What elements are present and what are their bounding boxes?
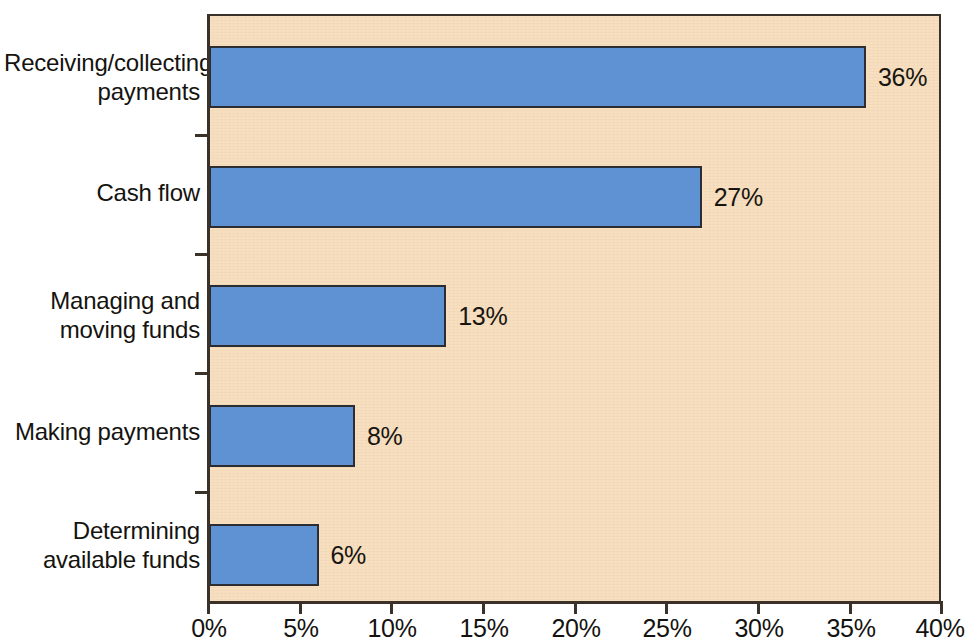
value-axis-tick [757,601,760,614]
category-axis-tick [195,491,208,494]
bar-value-label: 6% [331,541,367,570]
category-axis-tick [195,372,208,375]
bar-determining-available-funds [209,524,319,586]
category-label-line: payments [4,77,200,106]
category-label-cash-flow: Cash flow [4,178,200,207]
bar-chart: Receiving/collecting payments Cash flow … [0,0,970,643]
category-label-line: Determining [4,516,200,545]
value-axis-tick-label: 35% [826,614,875,643]
bar-row: 13% [209,285,939,347]
category-label-line: available funds [4,545,200,574]
value-axis-tick-label: 10% [367,614,416,643]
bar-row: 27% [209,166,939,228]
value-axis-tick-label: 25% [642,614,691,643]
bar-cash-flow [209,166,702,228]
value-axis-tick [390,601,393,614]
category-label-determining-available-funds: Determining available funds [4,516,200,574]
value-axis-tick-label: 0% [191,614,227,643]
bar-value-label: 8% [367,422,403,451]
plot-area: 36% 27% 13% 8% 6% [209,14,941,603]
value-axis-tick-label: 5% [283,614,319,643]
value-axis-tick-label: 40% [915,614,964,643]
category-label-line: Cash flow [4,178,200,207]
bar-value-label: 13% [458,302,507,331]
value-axis-tick [299,601,302,614]
bar-value-label: 36% [878,63,927,92]
bar-row: 36% [209,46,939,108]
bar-making-payments [209,405,355,467]
category-label-making-payments: Making payments [4,417,200,446]
value-axis-tick [665,601,668,614]
bar-managing-and-moving-funds [209,285,446,347]
category-label-receiving-collecting-payments: Receiving/collecting payments [4,48,200,106]
value-axis-line [207,14,210,605]
category-label-managing-and-moving-funds: Managing and moving funds [4,286,200,344]
category-label-line: moving funds [4,315,200,344]
bar-receiving-collecting-payments [209,46,866,108]
category-label-line: Making payments [4,417,200,446]
category-axis-tick [195,134,208,137]
category-label-line: Managing and [4,286,200,315]
category-axis-labels: Receiving/collecting payments Cash flow … [0,0,200,643]
value-axis-tick-label: 30% [734,614,783,643]
value-axis-tick [207,601,210,614]
value-axis-tick [482,601,485,614]
category-label-line: Receiving/collecting [4,48,200,77]
value-axis-tick-label: 20% [551,614,600,643]
value-axis-tick [849,601,852,614]
bar-row: 6% [209,524,939,586]
value-axis-tick-label: 15% [459,614,508,643]
bar-row: 8% [209,405,939,467]
value-axis-tick [574,601,577,614]
category-axis-tick [195,253,208,256]
bar-value-label: 27% [714,183,763,212]
value-axis-tick [940,601,943,614]
